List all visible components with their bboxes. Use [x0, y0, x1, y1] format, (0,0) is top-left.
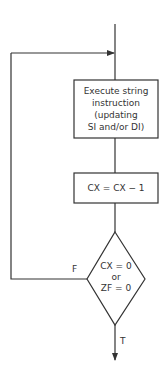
execute-line-2: instruction: [74, 97, 158, 109]
test-line-3: ZF = 0: [87, 283, 145, 294]
false-label: F: [72, 264, 77, 274]
execute-line-4: SI and/or DI): [74, 121, 158, 133]
decrement-line-1: CX = CX − 1: [74, 182, 158, 194]
true-label: T: [120, 336, 126, 346]
test-diamond-text: CX = 0 or ZF = 0: [87, 261, 145, 294]
decrement-box-text: CX = CX − 1: [74, 182, 158, 194]
execute-box-text: Execute string instruction (updating SI …: [74, 85, 158, 133]
test-line-1: CX = 0: [87, 261, 145, 272]
test-line-2: or: [87, 272, 145, 283]
execute-line-1: Execute string: [74, 85, 158, 97]
execute-line-3: (updating: [74, 109, 158, 121]
